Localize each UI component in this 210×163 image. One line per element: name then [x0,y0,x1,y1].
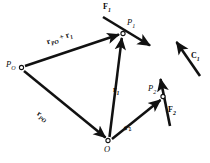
point-label-o: O [104,145,110,154]
node-o [106,138,110,142]
node-p1 [121,31,125,35]
vector-label-r1: r1 [113,86,119,96]
vector-diagram-figure: PO P1 O P2 rPO + r1 rPO r1 r2 F1 F2 C1 [0,0,210,163]
point-label-p-o: PO [6,60,16,71]
vector-r-po [24,71,106,138]
force-label-f1: F1 [103,3,111,13]
node-p-o [19,65,23,69]
node-p2 [161,94,165,98]
force-label-f2: F2 [168,106,176,116]
point-label-p2: P2 [148,84,156,95]
point-label-p1: P1 [127,18,135,29]
diagram-canvas [0,0,210,163]
force-f2 [161,79,171,126]
vector-r2 [112,100,161,139]
couple-label-c1: C1 [191,52,200,62]
